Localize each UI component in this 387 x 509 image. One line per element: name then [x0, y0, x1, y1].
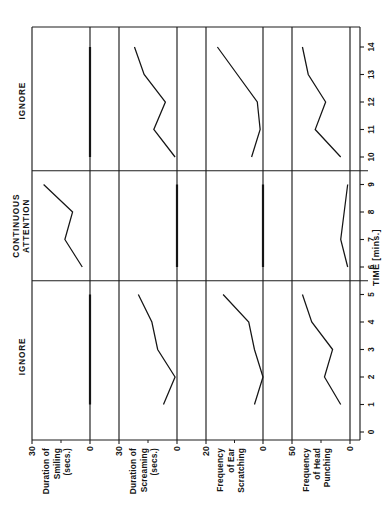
time-tick-label-12: 12	[367, 97, 376, 107]
time-tick-label-3: 3	[367, 347, 376, 352]
panel-3-ylabel-max: 20	[201, 446, 211, 456]
panel-3: 200Frequencyof EarScratching	[201, 27, 268, 493]
panel-1-label-line-2: Smiling	[52, 448, 62, 479]
time-tick-label-8: 8	[367, 209, 376, 214]
panel-3-label-line-2: of Ear	[226, 447, 236, 472]
phase-label-1: IGNORE	[18, 338, 27, 376]
panel-4-ylabel-max: 50	[287, 446, 297, 456]
panel-1-ylabel-min: 0	[85, 446, 95, 451]
panel-4-series-segment-3	[302, 47, 340, 157]
panel-2-ylabel-min: 0	[172, 446, 182, 451]
time-tick-label-5: 5	[367, 292, 376, 297]
time-tick-label-13: 13	[367, 70, 376, 80]
time-axis-title: TIME [mins.]	[371, 229, 381, 286]
time-tick-label-1: 1	[367, 402, 376, 407]
panel-2-label-line-2: Screaming	[139, 448, 149, 492]
panel-2-label-line-1: Duration of	[128, 448, 138, 494]
panel-1-label-line-3: (secs.)	[62, 448, 72, 476]
panel-4-series-segment-2	[341, 185, 348, 268]
phase-label-3: IGNORE	[18, 82, 27, 120]
panel-4-series-segment-1	[302, 295, 340, 405]
panel-2-label-line-3: (secs.)	[149, 448, 159, 476]
behavior-time-series-chart: 300Duration ofSmiling(secs.)300Duration …	[0, 0, 387, 509]
panel-2-ylabel-max: 30	[114, 446, 124, 456]
time-tick-label-0: 0	[367, 429, 376, 434]
time-tick-label-4: 4	[367, 319, 376, 324]
panel-3-label-line-3: Scratching	[236, 448, 246, 493]
panel-2: 300Duration ofScreaming(secs.)	[114, 27, 182, 494]
time-tick-label-2: 2	[367, 374, 376, 379]
panel-4: 500Frequencyof HeadPunching	[287, 27, 355, 492]
phase-label-2-line-2: ATTENTION	[22, 199, 31, 253]
panel-1-ylabel-max: 30	[27, 446, 37, 456]
time-tick-label-11: 11	[367, 125, 376, 134]
time-tick-label-14: 14	[367, 42, 376, 52]
panel-3-label-line-1: Frequency	[215, 448, 225, 492]
panel-4-label-line-1: Frequency	[301, 448, 311, 492]
panel-4-label-line-2: of Head	[312, 448, 322, 480]
phase-label-2-line-1: CONTINUOUS	[12, 194, 21, 258]
figure-container: 300Duration ofSmiling(secs.)300Duration …	[0, 0, 387, 509]
panel-4-ylabel-min: 0	[345, 446, 355, 451]
panel-4-label-line-3: Punching	[322, 448, 332, 487]
panel-1-series-segment-2	[44, 185, 83, 268]
panel-1: 300Duration ofSmiling(secs.)	[27, 27, 95, 494]
panel-2-series-segment-3	[134, 47, 175, 157]
panel-3-series-segment-3	[217, 47, 260, 157]
time-tick-label-9: 9	[367, 182, 376, 187]
panel-2-series-segment-1	[138, 295, 175, 405]
time-tick-label-10: 10	[367, 152, 376, 162]
panel-3-ylabel-min: 0	[258, 446, 268, 451]
panel-3-series-segment-1	[223, 295, 263, 405]
panel-1-label-line-1: Duration of	[41, 448, 51, 494]
